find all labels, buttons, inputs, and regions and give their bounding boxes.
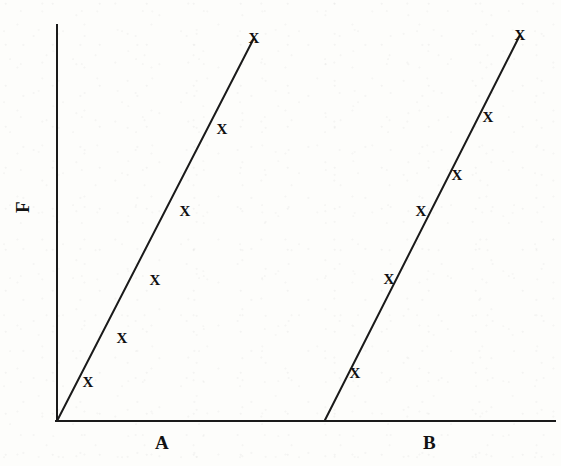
series-a-marker: X bbox=[150, 272, 161, 288]
scanned-figure: X X X X X X X X X X X X F A B bbox=[0, 0, 561, 466]
plot-canvas: X X X X X X X X X X X X bbox=[0, 0, 561, 466]
y-axis-label: F bbox=[12, 190, 34, 224]
series-a-marker: X bbox=[117, 330, 128, 346]
series-a-marker: X bbox=[249, 30, 260, 46]
series-a-marker: X bbox=[180, 203, 191, 219]
series-b-marker: X bbox=[350, 365, 361, 381]
series-a-marker: X bbox=[217, 121, 228, 137]
group-a-label: A bbox=[155, 432, 169, 454]
group-b-label: B bbox=[423, 432, 436, 454]
series-a-marker: X bbox=[83, 374, 94, 390]
series-b: X X X X X X bbox=[325, 27, 526, 420]
series-b-marker: X bbox=[452, 167, 463, 183]
series-b-marker: X bbox=[416, 203, 427, 219]
series-a-fit-line bbox=[57, 38, 254, 421]
series-b-marker: X bbox=[483, 109, 494, 125]
series-b-fit-line bbox=[325, 35, 520, 420]
series-a: X X X X X X bbox=[57, 30, 260, 421]
series-b-marker: X bbox=[515, 27, 526, 43]
series-b-marker: X bbox=[384, 271, 395, 287]
